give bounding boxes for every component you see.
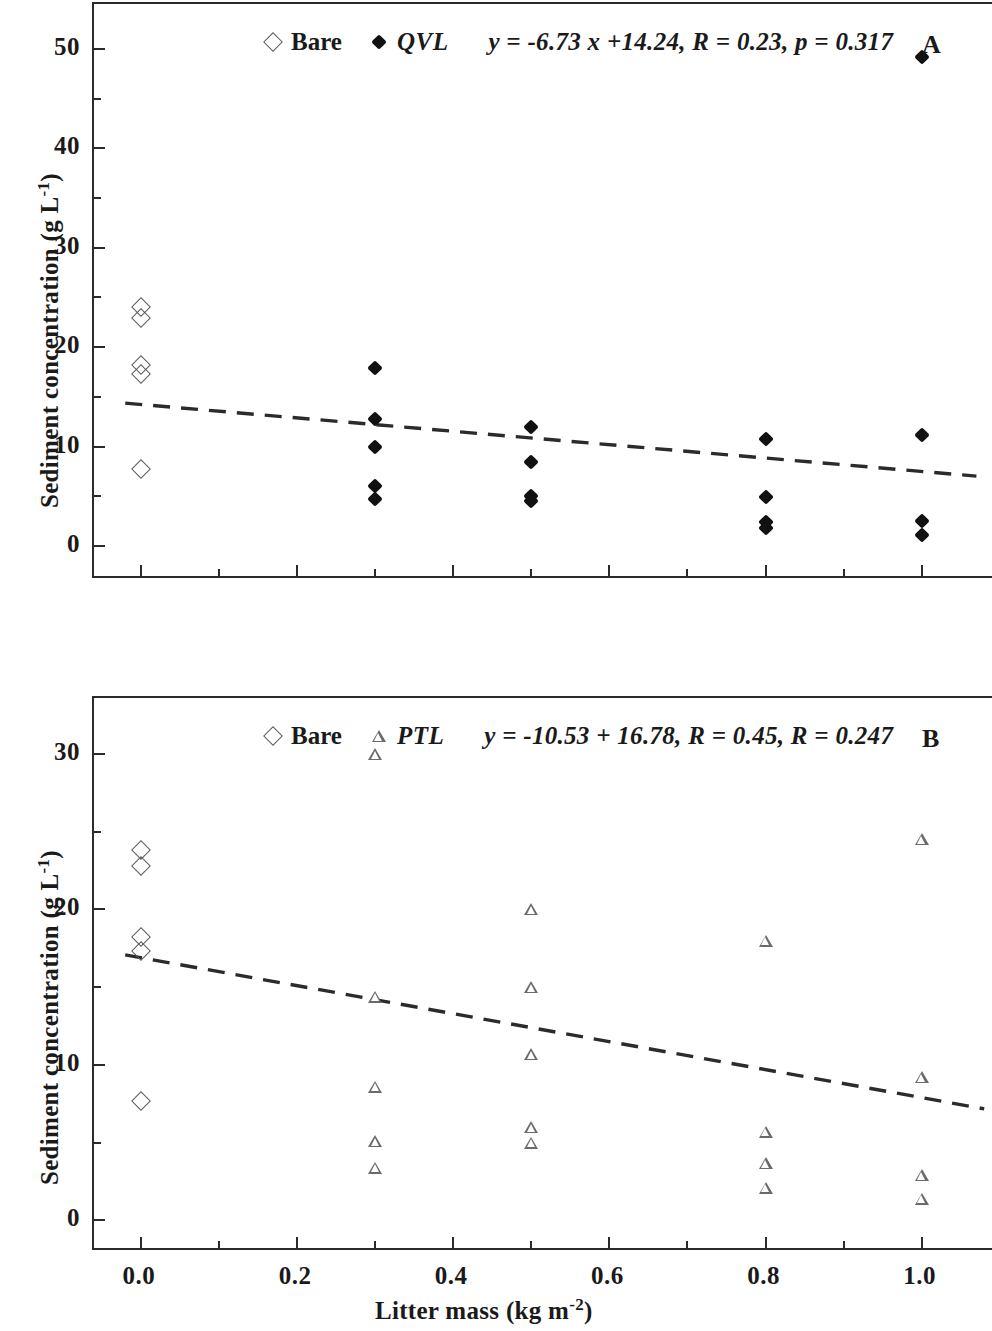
- y-tick-major: [94, 446, 105, 448]
- data-point-ptl: [915, 1071, 929, 1083]
- y-axis-title-sup-b: -1: [34, 859, 53, 874]
- x-tick-label: 0.0: [99, 1262, 179, 1290]
- data-point-ptl: [524, 1121, 538, 1133]
- x-tick-minor: [686, 569, 688, 576]
- panel-a: 01020304050 Sediment concentration (g L-…: [0, 0, 978, 600]
- x-tick-major: [921, 565, 923, 576]
- y-tick-label: 50: [20, 33, 80, 61]
- legend-label-bare-a: Bare: [291, 28, 342, 56]
- x-tick-minor: [843, 1241, 845, 1248]
- regression-line-a: [94, 4, 992, 578]
- data-point-ptl: [524, 981, 538, 993]
- y-tick-minor: [94, 197, 101, 199]
- data-point-ptl: [759, 1126, 773, 1138]
- legend-equation-b: y = -10.53 + 16.78, R = 0.45, R = 0.247: [484, 722, 893, 750]
- data-point-ptl: [368, 1135, 382, 1147]
- data-point-ptl: [368, 1162, 382, 1174]
- plot-area-a: [94, 4, 992, 576]
- regression-line-b: [94, 698, 992, 1250]
- panel-letter-a: A: [922, 30, 941, 60]
- x-tick-major: [765, 565, 767, 576]
- y-tick-minor: [94, 1142, 101, 1144]
- y-tick-label: 30: [20, 738, 80, 766]
- data-point-ptl: [915, 833, 929, 845]
- plot-area-b: [94, 698, 992, 1248]
- data-point-ptl: [524, 1048, 538, 1060]
- data-point-ptl: [759, 935, 773, 947]
- x-tick-major: [452, 1237, 454, 1248]
- x-tick-label: 0.4: [411, 1262, 491, 1290]
- legend-key-qvl-a: [368, 31, 390, 53]
- y-tick-major: [94, 545, 105, 547]
- y-tick-minor: [94, 98, 101, 100]
- x-tick-label: 0.8: [724, 1262, 804, 1290]
- x-tick-label: 1.0: [880, 1262, 960, 1290]
- x-tick-minor: [374, 569, 376, 576]
- legend-key-bare-a: [262, 31, 284, 53]
- y-tick-minor: [94, 396, 101, 398]
- data-point-ptl: [524, 903, 538, 915]
- x-tick-minor: [843, 569, 845, 576]
- x-tick-major: [452, 565, 454, 576]
- y-axis-title-text-b: Sediment concentration (g L: [36, 873, 63, 1185]
- plot-frame-a: [92, 2, 992, 578]
- filled-diamond-icon: [371, 34, 387, 50]
- y-tick-major: [94, 147, 105, 149]
- legend-equation-a: y = -6.73 x +14.24, R = 0.23, p = 0.317: [488, 28, 893, 56]
- x-tick-major: [140, 1237, 142, 1248]
- x-tick-major: [608, 1237, 610, 1248]
- legend-key-bare-b: [262, 725, 284, 747]
- y-tick-minor: [94, 495, 101, 497]
- x-tick-minor: [530, 1241, 532, 1248]
- y-tick-major: [94, 247, 105, 249]
- y-axis-title-sup-a: -1: [34, 182, 53, 197]
- x-tick-major: [608, 565, 610, 576]
- y-tick-minor: [94, 986, 101, 988]
- x-axis-title-sup: -2: [569, 1295, 584, 1314]
- y-axis-title-text-a: Sediment concentration (g L: [36, 196, 63, 508]
- y-axis-title-tail-a: ): [36, 173, 63, 182]
- x-tick-major: [921, 1237, 923, 1248]
- y-tick-label: 0: [20, 1204, 80, 1232]
- x-tick-minor: [374, 1241, 376, 1248]
- y-tick-major: [94, 1219, 105, 1221]
- open-diamond-icon: [263, 32, 283, 52]
- panel-b: 0102030 0.00.20.40.60.81.0 Sediment conc…: [0, 640, 978, 1331]
- legend-b: Bare PTL y = -10.53 + 16.78, R = 0.45, R…: [262, 722, 893, 750]
- x-tick-major: [296, 565, 298, 576]
- x-tick-major: [296, 1237, 298, 1248]
- legend-a: Bare QVL y = -6.73 x +14.24, R = 0.23, p…: [262, 28, 893, 56]
- data-point-ptl: [368, 1081, 382, 1093]
- y-axis-title-b: Sediment concentration (g L-1): [34, 850, 64, 1185]
- y-tick-label: 0: [20, 530, 80, 558]
- x-axis-title-tail: ): [584, 1297, 593, 1324]
- legend-label-bare-b: Bare: [291, 722, 342, 750]
- open-diamond-icon: [263, 726, 283, 746]
- y-tick-label: 40: [20, 132, 80, 160]
- open-triangle-icon: [372, 730, 386, 742]
- x-axis-title-text: Litter mass (kg m: [375, 1297, 569, 1324]
- data-point-ptl: [524, 1137, 538, 1149]
- y-tick-major: [94, 1064, 105, 1066]
- x-tick-label: 0.2: [255, 1262, 335, 1290]
- x-tick-label: 0.6: [567, 1262, 647, 1290]
- legend-key-ptl-b: [368, 725, 390, 747]
- y-axis-title-a: Sediment concentration (g L-1): [34, 173, 64, 508]
- y-tick-major: [94, 346, 105, 348]
- y-tick-major: [94, 753, 105, 755]
- y-tick-minor: [94, 296, 101, 298]
- x-tick-minor: [218, 1241, 220, 1248]
- panel-letter-b: B: [922, 724, 940, 754]
- data-point-ptl: [759, 1182, 773, 1194]
- legend-label-ptl-b: PTL: [397, 722, 444, 750]
- x-axis-title: Litter mass (kg m-2): [375, 1295, 593, 1325]
- data-point-ptl: [759, 1157, 773, 1169]
- y-tick-major: [94, 48, 105, 50]
- data-point-ptl: [368, 991, 382, 1003]
- x-tick-major: [765, 1237, 767, 1248]
- legend-label-qvl-a: QVL: [397, 28, 449, 56]
- x-tick-major: [140, 565, 142, 576]
- x-tick-minor: [530, 569, 532, 576]
- y-tick-minor: [94, 831, 101, 833]
